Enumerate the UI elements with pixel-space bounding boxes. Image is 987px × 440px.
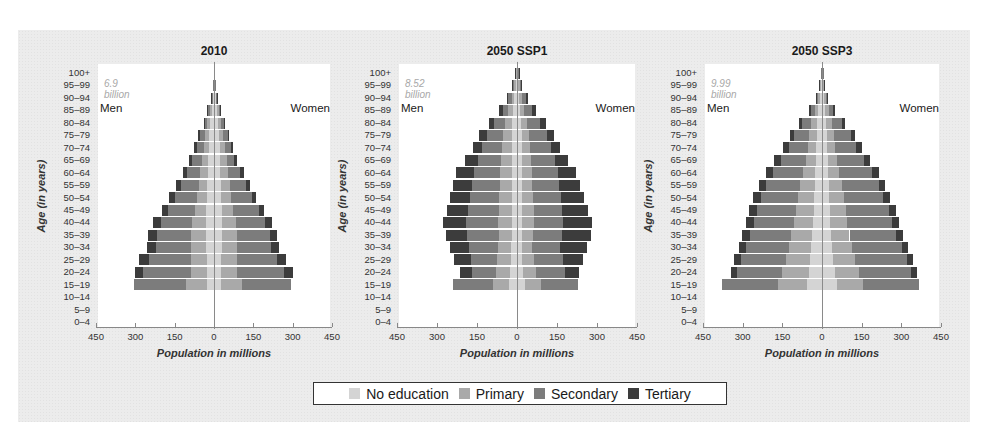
men-bar-segment [472,267,496,278]
age-tick-label: 20–24 [347,266,391,278]
women-bar-segment [902,242,908,253]
x-tick-label: 300 [728,331,758,342]
age-tick-label: 0–4 [347,316,391,328]
men-bar-segment [790,130,795,141]
women-bar-segment [559,180,580,191]
women-bar-segment [228,130,230,141]
men-bar-segment [148,230,156,241]
men-bar-segment [198,130,200,141]
men-bar-segment [774,155,781,166]
men-bar-segment [206,217,214,228]
x-tick-label: 450 [926,331,956,342]
men-bar-segment [208,105,210,116]
men-label: Men [707,102,729,114]
x-tick-label: 150 [542,331,572,342]
chart-title: 2010 [114,44,314,58]
women-bar-segment [284,267,293,278]
women-bar-segment [233,205,258,216]
men-bar-segment [189,155,192,166]
men-bar-segment [761,192,798,203]
x-tick-label: 150 [847,331,877,342]
x-axis-line [397,327,637,328]
age-tick-label: 100+ [347,67,391,79]
men-bar-segment [754,217,794,228]
age-tick-label: 10–14 [46,291,90,303]
men-bar-segment [783,142,789,153]
men-bar-segment [192,217,205,228]
men-bar-segment [809,130,816,141]
age-tick-label: 0–4 [653,316,697,328]
x-tick-mark [822,323,823,327]
men-bar-segment [183,167,187,178]
men-bar-segment [473,142,482,153]
men-bar-segment [498,242,511,253]
women-bar-segment [829,180,842,191]
legend-label: Tertiary [645,386,691,402]
zero-line [214,62,215,329]
men-bar-segment [153,217,161,228]
men-bar-segment [192,155,201,166]
age-tick-label: 95–99 [46,79,90,91]
age-tick-label: 40–44 [46,216,90,228]
women-bar-segment [214,242,222,253]
men-bar-segment [815,105,819,116]
men-bar-segment [450,242,469,253]
women-bar-segment [236,217,266,228]
women-bar-segment [863,279,919,290]
women-bar-segment [224,118,225,129]
men-bar-segment [450,192,470,203]
women-bar-segment [828,167,839,178]
women-bar-segment [246,180,250,191]
women-bar-segment [259,205,265,216]
women-bar-segment [835,142,856,153]
men-bar-segment [508,105,513,116]
x-tick-mark [782,323,783,327]
men-bar-segment [759,180,767,191]
men-bar-segment [176,180,181,191]
x-tick-label: 0 [502,331,532,342]
men-bar-segment [811,118,817,129]
women-bar-segment [892,217,899,228]
women-bar-segment [831,230,850,241]
age-tick-label: 45–49 [653,204,697,216]
men-bar-segment [789,142,808,153]
men-bar-segment [479,130,486,141]
women-bar-segment [237,242,271,253]
women-bar-segment [562,205,588,216]
x-tick-label: 150 [462,331,492,342]
age-tick-label: 25–29 [653,254,697,266]
women-bar-segment [822,279,837,290]
women-bar-segment [531,155,554,166]
legend-item-tertiary: Tertiary [628,386,691,402]
men-bar-segment [811,105,815,116]
women-bar-segment [252,192,257,203]
men-bar-segment [810,254,822,265]
age-tick-label: 55–59 [653,179,697,191]
men-bar-segment [482,142,502,153]
women-bar-segment [830,205,846,216]
women-bar-segment [228,167,240,178]
women-bar-segment [822,180,829,191]
men-bar-segment [515,68,516,79]
x-tick-mark [743,323,744,327]
women-bar-segment [534,254,563,265]
legend-item-secondary: Secondary [534,386,618,402]
men-bar-segment [162,205,169,216]
women-bar-segment [237,254,277,265]
x-tick-mark [437,323,438,327]
men-bar-segment [186,279,207,290]
women-bar-segment [872,167,878,178]
age-tick-label: 5–9 [653,304,697,316]
men-bar-segment [175,192,197,203]
men-bar-segment [447,205,468,216]
men-bar-segment [474,167,500,178]
men-bar-segment [212,93,213,104]
women-bar-segment [522,130,529,141]
age-tick-label: 70–74 [347,142,391,154]
women-bar-segment [822,267,835,278]
women-bar-segment [855,254,907,265]
women-bar-segment [227,155,235,166]
men-bar-segment [135,267,143,278]
women-bar-segment [563,217,592,228]
x-tick-mark [332,323,333,327]
